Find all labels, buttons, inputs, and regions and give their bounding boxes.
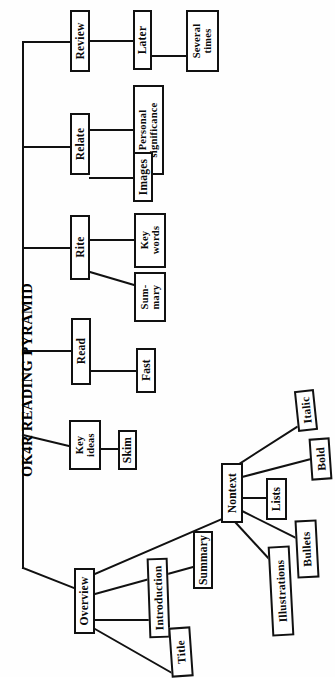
node-lists[interactable]: Lists <box>266 478 287 520</box>
node-key-words[interactable]: Key words <box>134 213 166 268</box>
link-nontext-italic <box>239 427 297 464</box>
node-summary-overview-label: Summary <box>197 535 209 585</box>
node-summary-rite-label: Sum- mary <box>139 285 161 310</box>
node-overview[interactable]: Overview <box>74 568 95 634</box>
node-bold[interactable]: Bold <box>309 437 333 480</box>
node-key-ideas[interactable]: Key ideas <box>69 420 101 470</box>
node-lists-label: Lists <box>270 487 282 512</box>
diagram-title-text: OK4R READING PYRAMID <box>19 283 36 477</box>
node-rite-label: Rite <box>74 237 86 258</box>
node-later[interactable]: Later <box>133 10 152 70</box>
node-read-label: Read <box>75 338 87 364</box>
node-personal-significance-label: Personal significance <box>137 103 159 158</box>
node-title-label: Title <box>174 640 188 665</box>
node-skim-label: Skim <box>121 437 133 463</box>
node-introduction-label: Introduction <box>151 565 165 630</box>
branch-overview <box>23 568 74 588</box>
link-rite-summary <box>90 272 134 285</box>
node-several-times-label: Several times <box>191 24 213 59</box>
node-key-ideas-label: Key ideas <box>74 433 96 457</box>
node-key-words-label: Key words <box>139 226 161 254</box>
node-relate-label: Relate <box>74 128 86 161</box>
node-fast[interactable]: Fast <box>136 348 156 393</box>
node-rite[interactable]: Rite <box>70 215 90 280</box>
node-bullets[interactable]: Bullets <box>294 519 319 578</box>
diagram-title: OK4R READING PYRAMID <box>17 255 37 505</box>
node-title[interactable]: Title <box>168 626 193 677</box>
node-several-times[interactable]: Several times <box>186 10 219 72</box>
node-images-label: Images <box>137 159 149 195</box>
node-summary-overview[interactable]: Summary <box>193 531 213 589</box>
node-fast-label: Fast <box>140 360 152 382</box>
node-italic[interactable]: Italic <box>294 389 318 432</box>
node-review[interactable]: Review <box>70 10 90 72</box>
node-introduction[interactable]: Introduction <box>147 558 171 639</box>
node-nontext-label: Nontext <box>226 473 238 513</box>
link-nontext-illustrations <box>236 523 271 561</box>
node-illustrations-label: Illustrations <box>273 559 288 622</box>
node-summary-rite[interactable]: Sum- mary <box>134 272 166 322</box>
link-overview-summary <box>95 567 193 594</box>
node-skim[interactable]: Skim <box>118 430 137 470</box>
node-italic-label: Italic <box>299 397 314 425</box>
node-overview-label: Overview <box>78 577 90 626</box>
node-illustrations[interactable]: Illustrations <box>268 545 295 636</box>
node-images[interactable]: Images <box>133 152 153 202</box>
node-nontext[interactable]: Nontext <box>221 463 243 523</box>
link-nontext-bold <box>242 459 311 477</box>
node-bold-label: Bold <box>314 447 328 472</box>
node-read[interactable]: Read <box>71 318 91 385</box>
node-review-label: Review <box>74 23 86 60</box>
node-later-label: Later <box>136 26 148 54</box>
node-bullets-label: Bullets <box>300 531 314 567</box>
node-relate[interactable]: Relate <box>70 113 90 175</box>
